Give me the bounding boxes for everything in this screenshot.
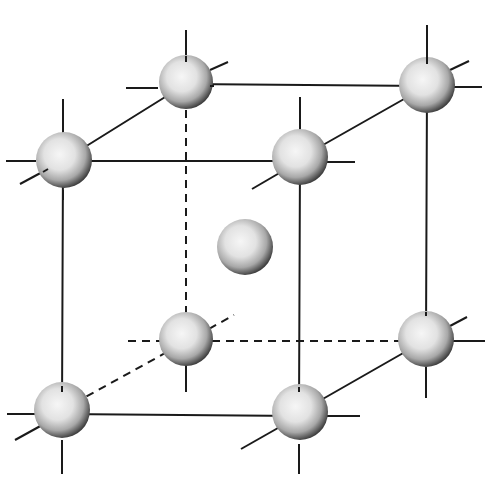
atom-body-center bbox=[217, 219, 273, 275]
atom-back-top-right bbox=[399, 57, 455, 113]
atom-front-top-left bbox=[36, 132, 92, 188]
atoms bbox=[34, 55, 455, 440]
bcc-lattice-diagram bbox=[0, 0, 488, 494]
atom-front-top-right bbox=[272, 129, 328, 185]
edge-bottom-front bbox=[62, 414, 300, 416]
atom-front-bottom-right bbox=[272, 384, 328, 440]
atom-back-top-left bbox=[159, 55, 213, 109]
atom-back-bottom-left bbox=[159, 312, 213, 366]
edge-vertical-back-right bbox=[426, 85, 427, 339]
edge-top-back bbox=[186, 84, 427, 86]
edge-vertical-front-right bbox=[299, 157, 300, 412]
atom-back-bottom-right bbox=[398, 311, 454, 367]
